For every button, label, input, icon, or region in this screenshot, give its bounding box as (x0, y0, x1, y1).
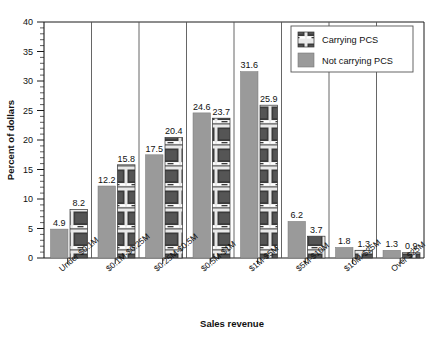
legend-swatch-monitor-icon (298, 32, 314, 47)
legend-label: Not carrying PCS (322, 56, 393, 66)
y-tick-label: 30 (23, 76, 33, 86)
y-tick-label: 20 (23, 135, 33, 145)
bar-not-carrying (98, 186, 116, 258)
y-tick-label: 25 (23, 106, 33, 116)
y-tick-labels: 0 5 10 15 20 25 30 35 40 (23, 17, 33, 263)
y-tick-label: 5 (28, 224, 33, 234)
bar-value-label: 31.6 (241, 60, 259, 70)
bar-not-carrying (51, 229, 69, 258)
legend: Carrying PCS Not carrying PCS (291, 26, 413, 72)
bar-carrying (213, 118, 231, 258)
bar-not-carrying (383, 250, 401, 258)
bar-value-label: 17.5 (146, 144, 164, 154)
bar-value-label: 1.8 (338, 236, 351, 246)
y-tick-label: 0 (28, 253, 33, 263)
bar-value-label: 20.4 (165, 126, 183, 136)
bar-value-label: 24.6 (193, 102, 211, 112)
bar-carrying (165, 138, 183, 258)
y-axis-title: Percent of dollars (5, 100, 16, 180)
y-tick-label: 10 (23, 194, 33, 204)
legend-label: Carrying PCS (322, 35, 378, 45)
bar-value-label: 15.8 (118, 154, 136, 164)
legend-swatch-gray-square-icon (298, 53, 314, 67)
x-axis-title: Sales revenue (200, 318, 264, 329)
bar-value-label: 12.2 (98, 175, 116, 185)
bar-group: 31.6 25.9 (241, 60, 278, 258)
bar-chart: 0 5 10 15 20 25 30 35 40 Percent of doll… (0, 0, 440, 341)
bar-not-carrying (336, 247, 354, 258)
bar-not-carrying (288, 221, 306, 258)
bar-value-label: 23.7 (213, 107, 231, 117)
bar-value-label: 6.2 (291, 210, 304, 220)
bar-value-label: 4.9 (53, 218, 66, 228)
bar-not-carrying (241, 72, 259, 258)
y-axis: 0 5 10 15 20 25 30 35 40 Percent of doll… (5, 17, 44, 263)
bar-carrying (260, 105, 278, 258)
y-tick-label: 15 (23, 165, 33, 175)
bar-value-label: 25.9 (260, 94, 278, 104)
bar-group: 12.2 15.8 (98, 154, 135, 259)
bar-group: 24.6 23.7 (193, 102, 230, 258)
bar-not-carrying (146, 155, 164, 258)
y-tick-label: 35 (23, 47, 33, 57)
bar-value-label: 3.7 (310, 225, 323, 235)
bar-value-label: 1.3 (386, 239, 399, 249)
y-tick-label: 40 (23, 17, 33, 27)
bar-value-label: 8.2 (73, 198, 86, 208)
